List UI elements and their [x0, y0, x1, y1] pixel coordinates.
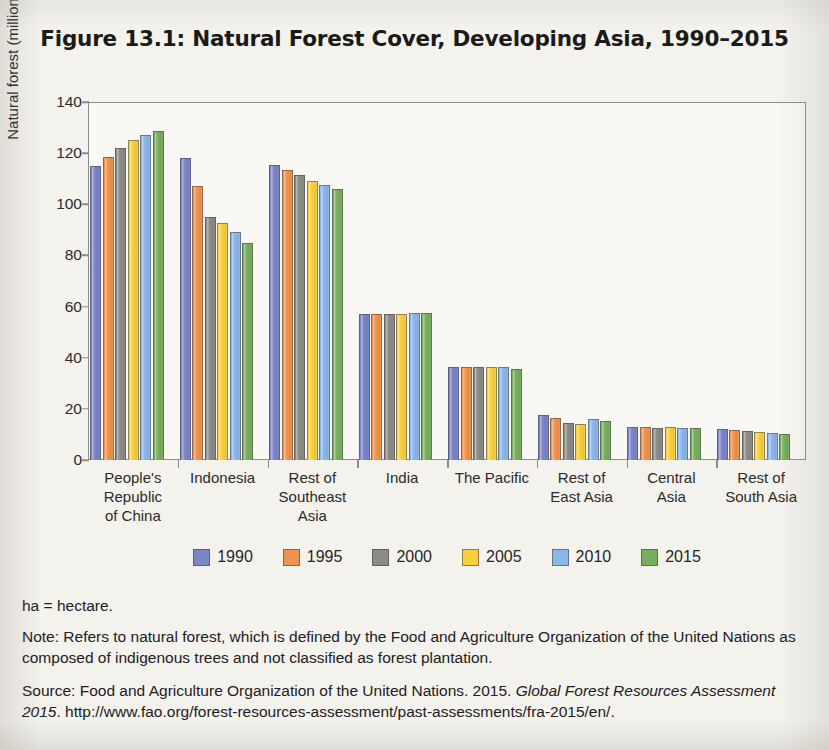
x-axis-category-label-line: East Asia	[539, 487, 625, 506]
y-axis-tick-mark	[82, 306, 89, 308]
x-axis-tick-mark	[268, 460, 270, 468]
bar	[779, 434, 790, 460]
legend-item[interactable]: 2005	[462, 548, 522, 566]
legend-swatch-icon	[193, 549, 210, 566]
bar-group	[717, 102, 807, 460]
y-axis-tick-label: 80	[36, 246, 82, 264]
bar-group	[359, 102, 449, 460]
legend-swatch-icon	[462, 549, 479, 566]
legend-label: 1995	[307, 548, 343, 566]
y-axis-tick-label: 60	[36, 298, 82, 316]
bar	[217, 223, 228, 460]
x-axis-category-label: Rest ofEast Asia	[537, 468, 627, 538]
bar	[742, 431, 753, 460]
bar	[242, 243, 253, 460]
figure-notes: ha = hectare. Note: Refers to natural fo…	[22, 595, 812, 734]
legend-item[interactable]: 2010	[552, 548, 612, 566]
y-axis-tick-label: 40	[36, 349, 82, 367]
bar	[269, 165, 280, 460]
bar	[729, 430, 740, 460]
bar	[90, 166, 101, 460]
bar	[498, 367, 509, 460]
bar	[575, 424, 586, 460]
source-prefix: Source: Food and Agriculture Organizatio…	[22, 682, 516, 699]
bar	[319, 185, 330, 460]
bar	[550, 418, 561, 460]
y-axis-tick-label: 100	[36, 195, 82, 213]
legend-label: 2000	[396, 548, 432, 566]
x-axis-category-label-line: Rest of	[718, 468, 804, 487]
chart-legend: 199019952000200520102015	[88, 548, 806, 566]
legend-item[interactable]: 2015	[641, 548, 701, 566]
bar	[717, 429, 728, 460]
legend-swatch-icon	[641, 549, 658, 566]
x-axis-category-label-line: The Pacific	[449, 468, 535, 487]
bar	[640, 427, 651, 460]
bar	[677, 428, 688, 460]
y-axis-tick-mark	[82, 408, 89, 410]
x-axis-category-label-line: Republic	[90, 487, 176, 506]
y-axis-tick-label: 140	[36, 93, 82, 111]
bar	[486, 367, 497, 460]
x-axis-category-label-line: of China	[90, 506, 176, 525]
legend-label: 2005	[486, 548, 522, 566]
legend-item[interactable]: 1990	[193, 548, 253, 566]
bar	[230, 232, 241, 460]
bar	[538, 415, 549, 460]
x-axis-tick-mark	[178, 460, 180, 468]
bar	[754, 432, 765, 460]
bar	[205, 217, 216, 460]
bar	[282, 170, 293, 460]
x-axis-category-label: Rest ofSouth Asia	[716, 468, 806, 538]
bar	[665, 427, 676, 460]
abbreviation-note: ha = hectare.	[22, 595, 812, 617]
legend-item[interactable]: 2000	[372, 548, 432, 566]
y-axis-title: Natural forest (million ha)	[4, 0, 21, 176]
x-axis-tick-mark	[716, 460, 718, 468]
bar	[588, 419, 599, 460]
x-axis-category-label-line: Asia	[629, 487, 715, 506]
x-axis-category-label: CentralAsia	[627, 468, 717, 538]
y-axis-tick-mark	[82, 152, 89, 154]
x-axis-category-label-line: South Asia	[718, 487, 804, 506]
x-axis-tick-mark	[447, 460, 449, 468]
bar	[332, 189, 343, 460]
bar	[473, 367, 484, 460]
bar	[140, 135, 151, 460]
y-axis-tick-label: 20	[36, 400, 82, 418]
x-axis-tick-mark	[537, 460, 539, 468]
y-axis-tick-label: 0	[36, 451, 82, 469]
bar-group	[538, 102, 628, 460]
source-text: Source: Food and Agriculture Organizatio…	[22, 680, 812, 723]
bar	[192, 186, 203, 460]
note-text: Note: Refers to natural forest, which is…	[22, 626, 812, 669]
bar	[409, 313, 420, 460]
bar	[767, 433, 778, 460]
x-axis-tick-mark	[357, 460, 359, 468]
bar	[384, 314, 395, 460]
y-axis-tick-mark	[82, 101, 89, 103]
bar	[103, 157, 114, 460]
figure-title: Figure 13.1: Natural Forest Cover, Devel…	[0, 26, 829, 51]
bar	[359, 314, 370, 460]
y-axis-tick-mark	[82, 459, 89, 461]
bar	[690, 428, 701, 460]
x-axis-category-label: Rest ofSoutheastAsia	[268, 468, 358, 538]
y-axis-tick-mark	[82, 255, 89, 257]
bar	[294, 175, 305, 460]
bar-groups	[90, 102, 806, 460]
bar	[563, 423, 574, 460]
legend-label: 2010	[576, 548, 612, 566]
bar	[627, 427, 638, 460]
x-axis-category-label-line: People's	[90, 468, 176, 487]
bar	[180, 158, 191, 460]
x-axis-category-label: India	[357, 468, 447, 538]
bar	[511, 369, 522, 460]
bar	[128, 140, 139, 460]
legend-item[interactable]: 1995	[283, 548, 343, 566]
bar	[448, 367, 459, 460]
bar	[600, 421, 611, 460]
bar	[153, 131, 164, 460]
legend-label: 2015	[665, 548, 701, 566]
legend-swatch-icon	[283, 549, 300, 566]
